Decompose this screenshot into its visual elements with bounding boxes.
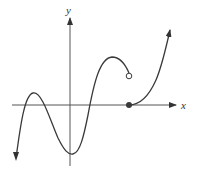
- arrow-left-down-icon: [13, 152, 19, 161]
- curve-left-piece: [16, 57, 129, 158]
- closed-dot-endpoint: [126, 102, 132, 108]
- curve-right-piece: [129, 30, 170, 105]
- x-axis-label: x: [180, 99, 186, 111]
- open-circle-endpoint: [126, 73, 132, 79]
- function-graph: x y: [0, 0, 199, 178]
- y-axis-label: y: [65, 4, 71, 16]
